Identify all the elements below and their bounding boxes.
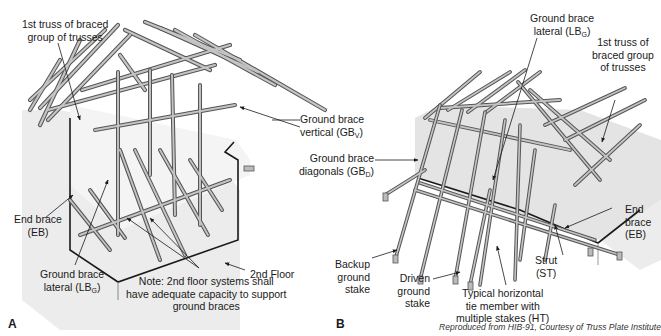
- label-text: lateral (LB: [534, 25, 582, 37]
- label-line: tie member with: [456, 300, 549, 313]
- panel-label-b: B: [336, 317, 345, 331]
- label-line: Note: 2nd floor systems shall: [126, 275, 287, 288]
- label-line: 1st truss of: [592, 36, 654, 49]
- label-line: Ground brace: [40, 268, 104, 281]
- label-line: have adequate capacity to support: [126, 288, 287, 301]
- label-line: stake: [328, 283, 370, 296]
- label-note: Note: 2nd floor systems shall have adequ…: [126, 275, 287, 313]
- label-line: braced group: [592, 49, 654, 62]
- brace-block: [244, 166, 254, 171]
- label-ground-brace-lateral-b: Ground brace lateral (LBG): [530, 12, 594, 37]
- label-line: brace: [625, 216, 651, 229]
- label-line: of trusses: [592, 61, 654, 74]
- label-ground-brace-vertical: Ground brace vertical (GBV): [300, 113, 364, 138]
- label-end-brace-b: End brace (EB): [625, 203, 651, 241]
- figure-b-drawing: [372, 38, 661, 290]
- label-text: ): [360, 126, 364, 138]
- label-line: ground: [392, 285, 430, 298]
- label-line: lateral (LBG): [40, 281, 104, 294]
- label-line: Backup: [328, 258, 370, 271]
- label-line: diagonals (GBD): [298, 165, 374, 178]
- label-line: group of trusses: [22, 31, 108, 44]
- label-text: lateral (LB: [44, 281, 92, 293]
- label-text: ): [97, 281, 101, 293]
- label-text: diagonals (GB: [299, 165, 366, 177]
- label-line: End: [625, 203, 651, 216]
- label-line: (EB): [14, 226, 62, 239]
- label-line: Driven: [392, 272, 430, 285]
- label-text: ): [371, 165, 375, 177]
- label-line: ground braces: [126, 300, 287, 313]
- label-line: ground: [328, 271, 370, 284]
- label-line: Ground brace: [530, 12, 594, 25]
- label-line: (EB): [625, 228, 651, 241]
- label-line: lateral (LBG): [530, 25, 594, 38]
- label-line: Typical horizontal: [456, 287, 549, 300]
- label-horizontal-tie: Typical horizontal tie member with multi…: [456, 287, 549, 325]
- label-line: Ground brace: [298, 152, 374, 165]
- label-line: 1st truss of braced: [22, 18, 108, 31]
- label-line: (ST): [535, 267, 557, 280]
- label-end-brace-a: End brace (EB): [14, 213, 62, 238]
- label-line: stake: [392, 297, 430, 310]
- label-line: Ground brace: [300, 113, 364, 126]
- label-strut: Strut (ST): [535, 254, 557, 279]
- label-line: End brace: [14, 213, 62, 226]
- label-ground-brace-diagonals: Ground brace diagonals (GBD): [298, 152, 374, 177]
- label-text: ): [587, 25, 591, 37]
- label-first-truss-a: 1st truss of braced group of trusses: [22, 18, 108, 43]
- label-text: vertical (GB: [300, 126, 355, 138]
- label-line: vertical (GBV): [300, 126, 364, 139]
- label-driven-stake: Driven ground stake: [392, 272, 430, 310]
- label-backup-stake: Backup ground stake: [328, 258, 370, 296]
- label-line: Strut: [535, 254, 557, 267]
- image-credit: Reproduced from HIB-91, Courtesy of Trus…: [439, 322, 661, 332]
- panel-label-a: A: [8, 317, 17, 331]
- label-first-truss-b: 1st truss of braced group of trusses: [592, 36, 654, 74]
- label-ground-brace-lateral-a: Ground brace lateral (LBG): [40, 268, 104, 293]
